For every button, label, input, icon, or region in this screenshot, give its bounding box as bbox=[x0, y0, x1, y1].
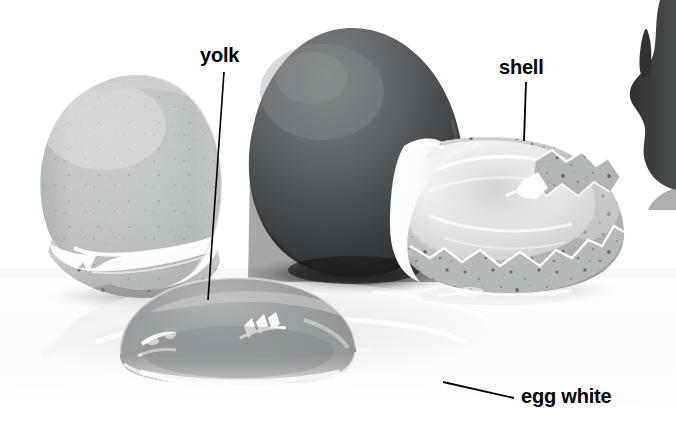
label-yolk: yolk bbox=[200, 45, 239, 65]
label-egg-white: egg white bbox=[521, 386, 611, 406]
egg-photograph bbox=[0, 0, 676, 435]
egg-anatomy-figure: yolk shell egg white bbox=[0, 0, 676, 435]
label-shell: shell bbox=[499, 57, 544, 77]
